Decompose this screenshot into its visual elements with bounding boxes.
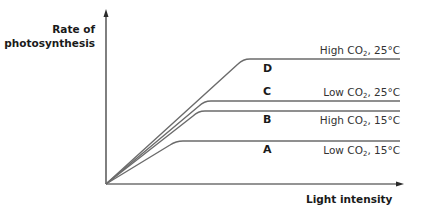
x-axis-arrow-icon [396, 182, 404, 187]
y-axis-label-line1: Rate of [4, 22, 95, 36]
y-axis-label-line2: photosynthesis [4, 36, 95, 50]
series-letter-C: C [263, 85, 271, 98]
x-axis-label: Light intensity [306, 193, 392, 205]
y-axis-arrow-icon [104, 9, 109, 17]
series-letter-A: A [263, 143, 272, 156]
series-label-B: High CO2, 15°C [320, 114, 400, 128]
series-label-D: High CO2, 25°C [320, 44, 400, 58]
series-label-A: Low CO2, 15°C [323, 144, 400, 158]
series-letter-B: B [263, 113, 271, 126]
series-label-C: Low CO2, 25°C [323, 86, 400, 100]
y-axis-label: Rate of photosynthesis [4, 22, 95, 50]
series-letter-D: D [263, 62, 272, 75]
